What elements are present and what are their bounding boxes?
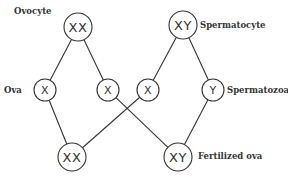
edge-ova_x1-to-fert_xx [49, 100, 67, 144]
edge-sperm_y-to-fert_xy [184, 100, 207, 145]
node-ova-x1: X [34, 79, 56, 101]
node-fertilized-xy: XY [164, 143, 192, 171]
ova-x2-chromosome: X [104, 84, 112, 97]
ovocyte-chromosomes: XX [69, 20, 88, 35]
node-ovocyte: XX [64, 13, 92, 41]
edges [49, 37, 208, 147]
sperm-y-chromosome: Y [208, 84, 216, 97]
edge-ova_x2-to-fert_xy [116, 98, 168, 148]
node-sperm-x: X [137, 79, 159, 101]
node-ova-x2: X [97, 79, 119, 101]
label-ova: Ova [4, 85, 22, 95]
sex-determination-diagram: XX XY X X X Y XX XY Ovocyte Spermatocyte… [0, 0, 288, 182]
node-spermatocyte: XY [169, 11, 197, 39]
edge-spermatocyte-to-sperm_y [189, 38, 209, 80]
node-fertilized-xx: XX [58, 143, 86, 171]
ova-x1-chromosome: X [41, 84, 49, 97]
label-spermatozoa: Spermatozoa [227, 85, 288, 95]
fertilized-xy-chromosomes: XY [169, 150, 187, 165]
sperm-x-chromosome: X [144, 84, 152, 97]
node-sperm-y: Y [202, 79, 224, 101]
edge-ovocyte-to-ova_x2 [84, 40, 103, 80]
edge-ovocyte-to-ova_x1 [50, 39, 71, 80]
spermatocyte-chromosomes: XY [174, 18, 192, 33]
edge-sperm_x-to-fert_xx [83, 97, 140, 147]
label-spermatocyte: Spermatocyte [200, 20, 266, 30]
label-fertilized-ova: Fertilized ova [198, 151, 263, 161]
label-ovocyte: Ovocyte [14, 6, 52, 16]
edge-spermatocyte-to-sperm_x [153, 37, 176, 80]
fertilized-xx-chromosomes: XX [63, 150, 82, 165]
